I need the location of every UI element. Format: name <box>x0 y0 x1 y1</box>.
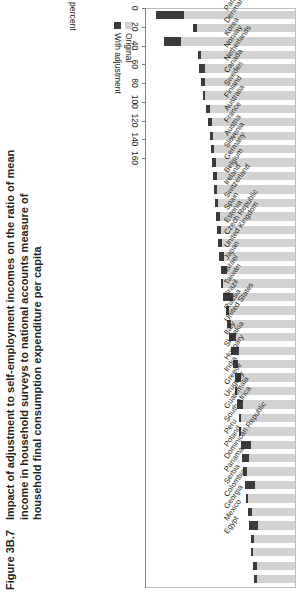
legend-swatch <box>125 22 132 29</box>
bar-with-adjustment <box>206 105 210 113</box>
axis-tick <box>142 158 146 159</box>
axis-tick <box>142 46 146 47</box>
bar-with-adjustment <box>193 24 198 32</box>
legend-item: Original <box>123 22 134 94</box>
bar-with-adjustment <box>215 199 218 207</box>
legend-item: With adjustment <box>112 22 123 94</box>
category-axis-labels: ParaguayDenmarkKoreaNorwayNetherlandsCan… <box>222 0 304 560</box>
bar-with-adjustment <box>156 11 184 19</box>
figure-number: Figure 3B.7 <box>4 520 17 596</box>
legend-label: With adjustment <box>112 33 123 94</box>
bar-with-adjustment <box>217 226 221 234</box>
axis-tick <box>142 102 146 103</box>
axis-tick-label: 100 <box>130 95 140 109</box>
bar-with-adjustment <box>213 158 217 166</box>
axis-tick <box>142 64 146 65</box>
bar-group <box>146 560 295 573</box>
chart-legend: OriginalWith adjustment <box>112 22 134 94</box>
bar-with-adjustment <box>253 562 258 570</box>
axis-tick-label: 0 <box>130 6 140 11</box>
bar-with-adjustment <box>211 145 215 153</box>
bar-group <box>146 573 295 586</box>
axis-tick <box>142 121 146 122</box>
bar-with-adjustment <box>254 575 258 583</box>
bar-with-adjustment <box>210 132 214 140</box>
axis-tick-label: 140 <box>130 132 140 146</box>
axis-tick <box>142 27 146 28</box>
legend-swatch <box>114 22 121 29</box>
bar-with-adjustment <box>204 91 206 99</box>
legend-label: Original <box>123 33 134 62</box>
axis-line <box>145 8 146 588</box>
bar-with-adjustment <box>214 185 217 193</box>
bar-with-adjustment <box>164 37 181 45</box>
bar-with-adjustment <box>216 212 220 220</box>
figure-caption: Figure 3B.7 Impact of adjustment to self… <box>0 0 62 596</box>
bar-original <box>254 575 295 583</box>
axis-tick-label: 120 <box>130 113 140 127</box>
axis-tick <box>142 83 146 84</box>
axis-unit-label: percent <box>68 2 78 31</box>
bar-with-adjustment <box>199 64 205 72</box>
axis-tick <box>142 139 146 140</box>
axis-tick-label: 160 <box>130 151 140 165</box>
value-axis: 160140120100806040200 <box>112 8 146 588</box>
bar-with-adjustment <box>198 51 201 59</box>
bar-with-adjustment <box>208 118 212 126</box>
figure-title: Impact of adjustment to self-employment … <box>4 140 45 520</box>
axis-tick <box>142 8 146 9</box>
bar-with-adjustment <box>201 78 205 86</box>
bar-original <box>253 562 295 570</box>
bar-with-adjustment <box>213 172 217 180</box>
